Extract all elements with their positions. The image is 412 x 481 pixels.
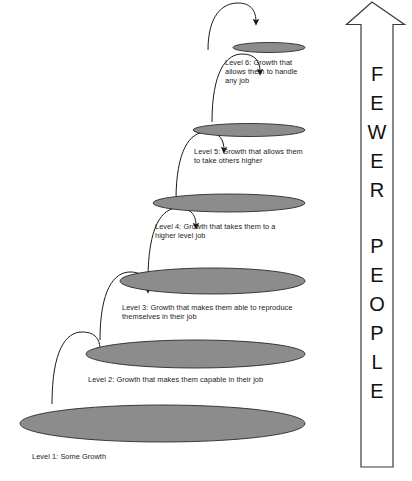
fewer-letter-w: W bbox=[368, 121, 387, 143]
people-letter-e1: E bbox=[370, 264, 383, 286]
fewer-letter-f: F bbox=[371, 63, 383, 85]
level-2-ellipse bbox=[86, 340, 305, 368]
fewer-letter-e2: E bbox=[370, 150, 383, 172]
fewer-letter-r: R bbox=[370, 179, 384, 201]
arrow-level4-to-level5 bbox=[176, 132, 224, 200]
people-letter-o: O bbox=[369, 293, 385, 315]
arrow-level1-to-level2 bbox=[52, 332, 100, 404]
level-1-label: Level 1: Some Growth bbox=[32, 452, 106, 461]
level-4-ellipse bbox=[153, 194, 305, 212]
level-6-ellipse bbox=[233, 43, 305, 53]
level-4-label: Level 4: Growth that takes them to a hig… bbox=[155, 222, 276, 240]
fewer-letter-e1: E bbox=[370, 92, 383, 114]
growth-levels-diagram: F E W E R P E O P L E bbox=[0, 0, 412, 481]
people-letter-p1: P bbox=[370, 235, 383, 257]
people-letter-p2: P bbox=[370, 322, 383, 344]
level-1-ellipse bbox=[20, 405, 305, 442]
level-6-label: Level 6: Growth that allows them to hand… bbox=[225, 58, 298, 86]
level-2-label: Level 2: Growth that makes them capable … bbox=[88, 375, 263, 384]
fewer-people-arrow: F E W E R P E O P L E bbox=[347, 2, 405, 467]
people-letter-e2: E bbox=[370, 380, 383, 402]
diagram-canvas: F E W E R P E O P L E Level 6: Growth th… bbox=[0, 0, 412, 481]
level-3-label: Level 3: Growth that makes them able to … bbox=[122, 303, 292, 321]
level-5-ellipse bbox=[193, 124, 305, 137]
level-3-ellipse bbox=[120, 268, 305, 294]
people-letter-l: L bbox=[371, 351, 382, 373]
level-5-label: Level 5: Growth that allows them to take… bbox=[194, 147, 303, 165]
